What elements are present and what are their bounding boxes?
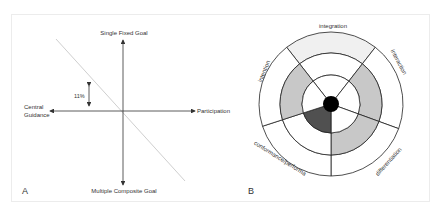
offset-label: 11% [74, 93, 85, 99]
axis-right-label: Participation [197, 108, 230, 114]
diagonal-line [56, 39, 185, 181]
axis-top-label: Single Fixed Goal [100, 30, 147, 36]
axis-left-label-line2: Guidance [24, 112, 50, 118]
panel-a-letter: A [22, 186, 28, 196]
panel-a-diagram: Single Fixed Goal Multiple Composite Goa… [22, 30, 230, 196]
axis-left-label-line1: Central [24, 104, 43, 110]
figure-canvas: Single Fixed Goal Multiple Composite Goa… [0, 0, 440, 211]
center-dot [323, 96, 339, 112]
axis-bottom-label: Multiple Composite Goal [91, 188, 156, 194]
segment-label-integration: integration [319, 23, 347, 29]
panel-b-letter: B [248, 186, 254, 196]
